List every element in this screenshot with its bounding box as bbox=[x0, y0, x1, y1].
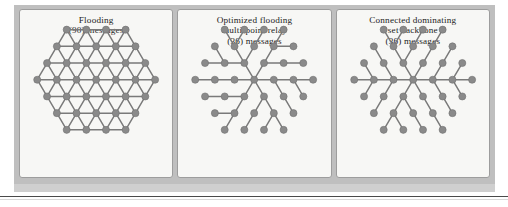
graph-node bbox=[102, 60, 109, 67]
graph-node bbox=[112, 76, 119, 83]
graph-node bbox=[202, 60, 209, 67]
graph-node bbox=[409, 110, 416, 117]
graph-node bbox=[290, 76, 297, 83]
graph-node bbox=[251, 76, 258, 83]
figure-root: Flooding (90) messages Optimized floodin… bbox=[0, 0, 508, 207]
graph-node bbox=[63, 26, 70, 33]
graph-node bbox=[261, 93, 268, 100]
graph-node bbox=[350, 76, 357, 83]
graph-node bbox=[132, 43, 139, 50]
graph-node bbox=[439, 126, 446, 133]
graph-node bbox=[261, 60, 268, 67]
figure-bottom-band bbox=[14, 184, 495, 192]
graph-node bbox=[370, 110, 377, 117]
graph-node bbox=[280, 93, 287, 100]
graph-node bbox=[192, 76, 199, 83]
panel-flooding: Flooding (90) messages bbox=[19, 9, 173, 178]
graph-node bbox=[83, 93, 90, 100]
graph-node bbox=[241, 126, 248, 133]
graph-node bbox=[102, 93, 109, 100]
graph-node bbox=[231, 43, 238, 50]
graph-node bbox=[132, 76, 139, 83]
graph-node bbox=[390, 110, 397, 117]
graph-node bbox=[63, 60, 70, 67]
graph-node bbox=[63, 93, 70, 100]
graph-node bbox=[360, 93, 367, 100]
graph-node bbox=[290, 110, 297, 117]
graph-node bbox=[439, 60, 446, 67]
graph-node bbox=[370, 76, 377, 83]
panel-flooding-graph bbox=[20, 10, 172, 177]
graph-node bbox=[280, 26, 287, 33]
graph-node bbox=[261, 126, 268, 133]
graph-node bbox=[73, 76, 80, 83]
graph-node bbox=[271, 76, 278, 83]
graph-node bbox=[44, 60, 51, 67]
graph-node bbox=[221, 60, 228, 67]
graph-node bbox=[34, 76, 41, 83]
graph-node bbox=[439, 26, 446, 33]
panel-cds: Connected dominating set backbone (36) m… bbox=[336, 9, 490, 178]
graph-node bbox=[390, 76, 397, 83]
graph-node bbox=[409, 76, 416, 83]
graph-node bbox=[142, 93, 149, 100]
graph-node bbox=[271, 43, 278, 50]
graph-node bbox=[83, 26, 90, 33]
graph-node bbox=[399, 126, 406, 133]
graph-node bbox=[449, 110, 456, 117]
graph-node bbox=[102, 26, 109, 33]
graph-node bbox=[458, 60, 465, 67]
graph-node bbox=[93, 76, 100, 83]
graph-node bbox=[449, 76, 456, 83]
panel-cds-graph bbox=[337, 10, 489, 177]
graph-node bbox=[449, 43, 456, 50]
graph-node bbox=[73, 43, 80, 50]
graph-node bbox=[439, 93, 446, 100]
cds-backbone-svg bbox=[337, 10, 489, 177]
graph-node bbox=[152, 76, 159, 83]
graph-node bbox=[380, 60, 387, 67]
graph-node bbox=[390, 43, 397, 50]
graph-node bbox=[300, 93, 307, 100]
graph-node bbox=[132, 110, 139, 117]
graph-node bbox=[212, 110, 219, 117]
figure-plate: Flooding (90) messages Optimized floodin… bbox=[14, 5, 495, 184]
graph-node bbox=[380, 93, 387, 100]
graph-node bbox=[251, 43, 258, 50]
graph-node bbox=[231, 110, 238, 117]
flooding-lattice-svg bbox=[20, 10, 172, 177]
graph-node bbox=[102, 126, 109, 133]
graph-node bbox=[231, 76, 238, 83]
graph-node bbox=[280, 126, 287, 133]
graph-node bbox=[53, 110, 60, 117]
graph-node bbox=[419, 93, 426, 100]
graph-node bbox=[202, 93, 209, 100]
graph-node bbox=[241, 26, 248, 33]
graph-node bbox=[261, 26, 268, 33]
graph-node bbox=[44, 93, 51, 100]
page-rule-light bbox=[0, 199, 508, 200]
graph-node bbox=[399, 93, 406, 100]
graph-node bbox=[458, 93, 465, 100]
graph-node bbox=[53, 76, 60, 83]
graph-node bbox=[93, 43, 100, 50]
graph-node bbox=[271, 110, 278, 117]
graph-node bbox=[122, 126, 129, 133]
graph-node bbox=[419, 126, 426, 133]
graph-node bbox=[83, 60, 90, 67]
panel-row: Flooding (90) messages Optimized floodin… bbox=[14, 5, 495, 184]
graph-node bbox=[142, 60, 149, 67]
graph-node bbox=[370, 43, 377, 50]
graph-node bbox=[93, 110, 100, 117]
graph-node bbox=[360, 60, 367, 67]
graph-node bbox=[53, 43, 60, 50]
graph-node bbox=[380, 126, 387, 133]
graph-node bbox=[221, 126, 228, 133]
graph-node bbox=[112, 110, 119, 117]
graph-node bbox=[290, 43, 297, 50]
graph-node bbox=[380, 26, 387, 33]
graph-node bbox=[241, 60, 248, 67]
panel-mpr: Optimized flooding multi-point relay (36… bbox=[177, 9, 331, 178]
graph-node bbox=[221, 93, 228, 100]
graph-node bbox=[310, 76, 317, 83]
